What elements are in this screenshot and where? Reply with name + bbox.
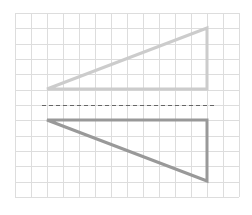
reflection-diagram	[0, 0, 252, 215]
